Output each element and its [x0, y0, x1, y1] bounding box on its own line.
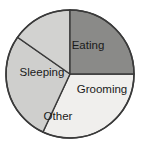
pie-label-grooming: Grooming [77, 83, 128, 95]
pie-chart-figure: Eating Sleeping Other Grooming [0, 0, 143, 156]
pie-label-sleeping: Sleeping [20, 66, 65, 78]
pie-label-eating: Eating [72, 39, 105, 51]
pie-chart-svg: Eating Sleeping Other Grooming [0, 0, 143, 156]
pie-label-other: Other [44, 110, 73, 122]
